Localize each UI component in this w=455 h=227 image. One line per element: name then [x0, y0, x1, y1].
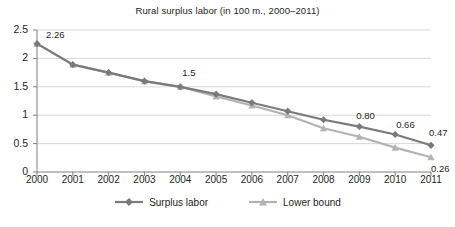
x-axis-tick-label: 2006 [232, 174, 272, 185]
x-axis-tick-label: 2004 [160, 174, 200, 185]
x-axis-tick-label: 2000 [17, 174, 57, 185]
x-axis-tick-label: 2010 [375, 174, 415, 185]
chart-container: Rural surplus labor (in 100 m., 2000–201… [0, 0, 455, 227]
legend-label: Lower bound [283, 197, 341, 208]
x-axis-tick-label: 2002 [89, 174, 129, 185]
y-axis-tick-label: 2.5 [2, 23, 28, 35]
marker-diamond [392, 131, 399, 138]
x-axis-tick-label: 2007 [268, 174, 308, 185]
legend-diamond-icon [114, 196, 144, 208]
x-axis-tick-label: 2003 [124, 174, 164, 185]
x-axis-tick-label: 2001 [53, 174, 93, 185]
chart-legend: Surplus laborLower bound [0, 196, 455, 208]
legend-label: Surplus labor [149, 197, 208, 208]
y-axis-tick-label: 1 [2, 108, 28, 120]
series-line-lower-bound [37, 44, 431, 158]
data-label: 0.26 [431, 163, 450, 174]
marker-diamond [320, 116, 327, 123]
legend-triangle-icon [248, 196, 278, 208]
data-label: 1.5 [182, 67, 195, 78]
y-axis-tick-label: 0.5 [2, 137, 28, 149]
legend-item-lower-bound[interactable]: Lower bound [248, 196, 341, 208]
data-label: 2.26 [46, 29, 65, 40]
x-axis-tick-label: 2008 [304, 174, 344, 185]
x-axis-tick-label: 2005 [196, 174, 236, 185]
plot-area [0, 0, 455, 227]
legend-item-surplus-labor[interactable]: Surplus labor [114, 196, 208, 208]
data-label: 0.47 [429, 127, 448, 138]
marker-diamond [356, 123, 363, 130]
marker-diamond [427, 142, 434, 149]
data-label: 0.66 [396, 119, 415, 130]
y-axis-tick-label: 2 [2, 51, 28, 63]
x-axis-tick-label: 2009 [339, 174, 379, 185]
y-axis-tick-label: 1.5 [2, 80, 28, 92]
data-label: 0.80 [356, 110, 375, 121]
x-axis-tick-label: 2011 [411, 174, 451, 185]
